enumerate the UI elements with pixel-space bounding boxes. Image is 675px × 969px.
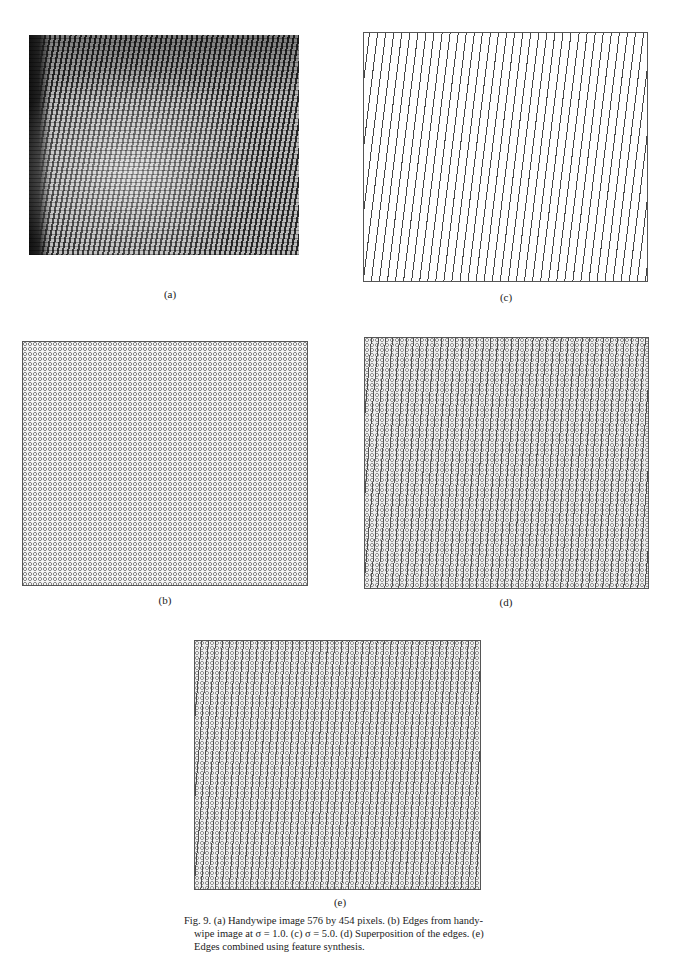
figure-caption: Fig. 9. (a) Handywipe image 576 by 454 p… — [184, 914, 504, 953]
panel-label-a: (a) — [150, 288, 190, 300]
figure-panel-e-feature-synthesis — [194, 640, 481, 890]
figure-panel-a-handywipe-image — [29, 35, 299, 255]
figure-panel-d-superposition — [364, 337, 649, 589]
panel-label-b: (b) — [145, 594, 185, 606]
caption-continuation: wipe image at σ = 1.0. (c) σ = 5.0. (d) … — [184, 927, 504, 953]
caption-first-line: Fig. 9. (a) Handywipe image 576 by 454 p… — [184, 914, 504, 927]
panel-label-c: (c) — [486, 291, 526, 303]
panel-label-d: (d) — [486, 596, 526, 608]
figure-panel-b-edges-sigma-1 — [22, 341, 308, 586]
panel-label-e: (e) — [320, 896, 360, 908]
figure-panel-c-edges-sigma-5 — [363, 32, 648, 282]
